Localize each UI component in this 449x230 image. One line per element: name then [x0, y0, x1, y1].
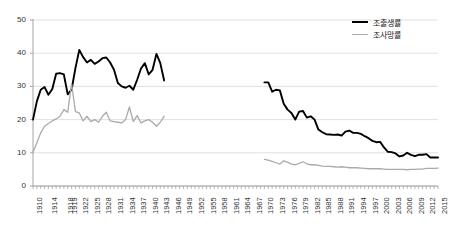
x-tick-label: 1919 — [71, 197, 79, 214]
x-tick-label: 1934 — [129, 197, 137, 214]
x-tick-label: 1937 — [140, 197, 148, 214]
legend-swatch-icon — [352, 21, 368, 23]
x-tick-label: 1914 — [51, 197, 59, 214]
legend-label: 조사망률 — [373, 29, 401, 40]
y-tick-label: 50 — [2, 16, 26, 24]
x-tick-label: 1985 — [325, 197, 333, 214]
legend-entry: 조출생률 — [352, 16, 438, 28]
y-tick-label: 0 — [2, 182, 26, 190]
x-tick-label: 1928 — [105, 197, 113, 214]
x-tick-label: 1970 — [267, 197, 275, 214]
legend-label: 조출생률 — [373, 17, 401, 28]
x-tick-label: 1946 — [175, 197, 183, 214]
x-tick-label: 1943 — [163, 197, 171, 214]
x-tick-label: 1910 — [36, 197, 44, 214]
x-tick-label: 1967 — [256, 197, 264, 214]
x-tick-label: 1964 — [244, 197, 252, 214]
x-tick-label: 1952 — [198, 197, 206, 214]
x-tick-label: 1958 — [221, 197, 229, 214]
x-tick-label: 1994 — [360, 197, 368, 214]
x-tick-label: 1982 — [314, 197, 322, 214]
x-tick-label: 2009 — [418, 197, 426, 214]
x-tick-label: 1997 — [372, 197, 380, 214]
x-tick-label: 1991 — [348, 197, 356, 214]
x-tick-label: 1988 — [337, 197, 345, 214]
x-tick-label: 1955 — [210, 197, 218, 214]
x-tick-label: 2015 — [441, 197, 449, 214]
x-tick-label: 1940 — [152, 197, 160, 214]
series-line-death-rate-seg0 — [33, 84, 164, 152]
x-tick-label: 1922 — [82, 197, 90, 214]
x-tick-label: 1973 — [279, 197, 287, 214]
x-tick-label: 1931 — [117, 197, 125, 214]
y-tick-label: 40 — [2, 49, 26, 57]
chart-legend: 조출생률조사망률 — [352, 16, 438, 40]
x-tick-label: 1979 — [302, 197, 310, 214]
x-tick-label: 2006 — [406, 197, 414, 214]
x-tick-label: 2012 — [429, 197, 437, 214]
x-tick-label: 1976 — [291, 197, 299, 214]
y-tick-label: 20 — [2, 116, 26, 124]
y-tick-label: 30 — [2, 82, 26, 90]
series-line-death-rate-seg1 — [264, 159, 438, 169]
x-tick-label: 2003 — [395, 197, 403, 214]
x-tick-label: 1961 — [233, 197, 241, 214]
x-tick-label: 1925 — [94, 197, 102, 214]
legend-entry: 조사망률 — [352, 28, 438, 40]
x-tick-label: 1949 — [186, 197, 194, 214]
x-tick-label: 2000 — [383, 197, 391, 214]
series-line-birth-rate-seg0 — [33, 50, 164, 120]
legend-swatch-icon — [352, 34, 368, 35]
y-tick-label: 10 — [2, 149, 26, 157]
